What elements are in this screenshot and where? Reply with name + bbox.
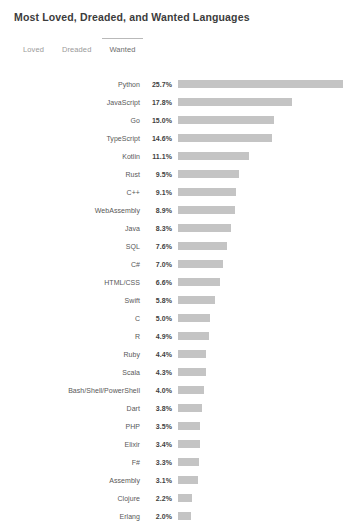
bar-row: R4.9%	[0, 327, 363, 345]
bar-row-label: C	[0, 315, 140, 322]
bar	[178, 134, 272, 142]
bar	[178, 80, 343, 88]
page-title: Most Loved, Dreaded, and Wanted Language…	[14, 11, 250, 23]
bar	[178, 422, 200, 430]
bar-row: Kotlin11.1%	[0, 147, 363, 165]
bar-row-value: 5.0%	[140, 315, 178, 322]
bar-row-label: F#	[0, 459, 140, 466]
bar-row-label: JavaScript	[0, 99, 140, 106]
bar	[178, 314, 210, 322]
bar-row: Swift5.8%	[0, 291, 363, 309]
bar-row-label: HTML/CSS	[0, 279, 140, 286]
bar	[178, 404, 202, 412]
bar-track	[178, 399, 363, 417]
bar-row-value: 11.1%	[140, 153, 178, 160]
bar	[178, 98, 292, 106]
bar-row: JavaScript17.8%	[0, 93, 363, 111]
bar-track	[178, 219, 363, 237]
bar-track	[178, 453, 363, 471]
bar-row-value: 9.5%	[140, 171, 178, 178]
bar-row-label: PHP	[0, 423, 140, 430]
bar-row: Elixir3.4%	[0, 435, 363, 453]
bar-row-label: C#	[0, 261, 140, 268]
bar-row-label: C++	[0, 189, 140, 196]
bar-row-label: Python	[0, 81, 140, 88]
bar-track	[178, 201, 363, 219]
bar-track	[178, 309, 363, 327]
bar-row: Clojure2.2%	[0, 489, 363, 507]
tab-bar: LovedDreadedWanted	[14, 38, 145, 57]
bar-row: Java8.3%	[0, 219, 363, 237]
bar-row-value: 7.0%	[140, 261, 178, 268]
bar-row-value: 9.1%	[140, 189, 178, 196]
bar-row-value: 2.0%	[140, 513, 178, 520]
bar-row-value: 15.0%	[140, 117, 178, 124]
bar-row-label: Assembly	[0, 477, 140, 484]
tab-loved[interactable]: Loved	[14, 38, 53, 57]
bar	[178, 332, 209, 340]
bar	[178, 512, 191, 520]
tab-wanted[interactable]: Wanted	[100, 38, 144, 57]
bar-track	[178, 417, 363, 435]
bar-row-value: 4.4%	[140, 351, 178, 358]
bar-row-value: 3.4%	[140, 441, 178, 448]
bar	[178, 296, 215, 304]
bar-row-value: 4.3%	[140, 369, 178, 376]
tab-dreaded[interactable]: Dreaded	[53, 38, 100, 57]
bar-row-label: Ruby	[0, 351, 140, 358]
bar-track	[178, 435, 363, 453]
bar-track	[178, 129, 363, 147]
bar-row: Rust9.5%	[0, 165, 363, 183]
bar	[178, 350, 206, 358]
bar-row: Assembly3.1%	[0, 471, 363, 489]
bar-row-value: 8.9%	[140, 207, 178, 214]
bar-row: Erlang2.0%	[0, 507, 363, 525]
bar-track	[178, 183, 363, 201]
bar-row: Dart3.8%	[0, 399, 363, 417]
bar	[178, 458, 199, 466]
bar-row: PHP3.5%	[0, 417, 363, 435]
bar-row-label: Dart	[0, 405, 140, 412]
bar-row: HTML/CSS6.6%	[0, 273, 363, 291]
bar-row-label: TypeScript	[0, 135, 140, 142]
bar-row-value: 5.8%	[140, 297, 178, 304]
bar-track	[178, 327, 363, 345]
bar-row-value: 14.6%	[140, 135, 178, 142]
bar-row: Ruby4.4%	[0, 345, 363, 363]
bar-row-value: 3.1%	[140, 477, 178, 484]
bar-row-value: 6.6%	[140, 279, 178, 286]
bar-track	[178, 111, 363, 129]
bar-row-value: 7.6%	[140, 243, 178, 250]
bar-row: C5.0%	[0, 309, 363, 327]
bar-track	[178, 165, 363, 183]
bar-row: Go15.0%	[0, 111, 363, 129]
bar-row: Python25.7%	[0, 75, 363, 93]
bar-row-value: 3.5%	[140, 423, 178, 430]
bar-track	[178, 507, 363, 525]
bar-row-value: 8.3%	[140, 225, 178, 232]
bar-row-label: SQL	[0, 243, 140, 250]
bar-track	[178, 363, 363, 381]
bar-row-value: 17.8%	[140, 99, 178, 106]
bar-row-label: Java	[0, 225, 140, 232]
bar-row-label: Erlang	[0, 513, 140, 520]
bar-row: WebAssembly8.9%	[0, 201, 363, 219]
bar-row-value: 3.8%	[140, 405, 178, 412]
bar-row-label: WebAssembly	[0, 207, 140, 214]
bar-row-label: Go	[0, 117, 140, 124]
bar-track	[178, 381, 363, 399]
bar-row: C++9.1%	[0, 183, 363, 201]
bar-track	[178, 291, 363, 309]
bar-track	[178, 93, 363, 111]
bar-row: TypeScript14.6%	[0, 129, 363, 147]
bar-row: F#3.3%	[0, 453, 363, 471]
bar-row-label: Swift	[0, 297, 140, 304]
bar-row-value: 2.2%	[140, 495, 178, 502]
bar-row-label: Elixir	[0, 441, 140, 448]
bar	[178, 224, 231, 232]
bar	[178, 206, 235, 214]
bar-row: SQL7.6%	[0, 237, 363, 255]
bar	[178, 188, 236, 196]
bar-track	[178, 255, 363, 273]
bar-row-label: Clojure	[0, 495, 140, 502]
